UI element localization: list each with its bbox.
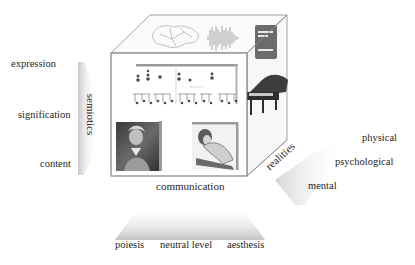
communication-axis-shade: [115, 205, 265, 240]
realities-level-physical: physical: [362, 133, 397, 144]
communication-level-neutral: neutral level: [160, 240, 212, 251]
cube-diagram: [0, 0, 415, 265]
composer-portrait: [116, 121, 162, 171]
semiotics-level-content: content: [40, 159, 71, 170]
realities-level-psychological: psychological: [335, 157, 393, 168]
communication-axis-label: communication: [156, 181, 224, 192]
communication-level-aesthesis: aesthesis: [227, 240, 264, 251]
semiotics-level-signification: signification: [18, 110, 71, 121]
semiotics-axis-label: semiotics: [85, 94, 96, 136]
communication-level-poiesis: poiesis: [115, 240, 144, 251]
listener-engraving: [192, 122, 239, 170]
semiotics-level-expression: expression: [11, 59, 56, 70]
realities-level-mental: mental: [308, 181, 337, 192]
